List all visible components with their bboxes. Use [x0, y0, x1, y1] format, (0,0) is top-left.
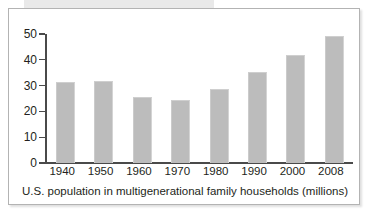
- figure-page: 01020304050 1940195019601970198019902000…: [0, 0, 372, 218]
- bar-series: [46, 34, 353, 163]
- bar-slot: [200, 34, 238, 163]
- bar-slot: [315, 34, 353, 163]
- bar-slot: [276, 34, 314, 163]
- chart-caption: U.S. population in multigenerational fam…: [9, 185, 361, 197]
- bar: [94, 81, 113, 163]
- y-axis-labels: 01020304050: [9, 9, 37, 206]
- y-axis-tick-label: 0: [13, 157, 37, 169]
- bar: [248, 72, 267, 163]
- bar: [286, 55, 305, 163]
- chart-figure-frame: 01020304050 1940195019601970198019902000…: [8, 8, 360, 205]
- x-axis-labels: 19401950196019701980199020002008: [46, 166, 353, 182]
- bar-slot: [238, 34, 276, 163]
- y-axis-tick-label: 50: [13, 28, 37, 40]
- y-axis-tick-label: 20: [13, 105, 37, 117]
- bar-slot: [123, 34, 161, 163]
- bar: [56, 82, 75, 163]
- bar-slot: [46, 34, 84, 163]
- y-axis-tick-label: 40: [13, 54, 37, 66]
- y-axis-tick-label: 10: [13, 131, 37, 143]
- bar-chart: 01020304050 1940195019601970198019902000…: [9, 9, 361, 206]
- bar-slot: [161, 34, 199, 163]
- y-axis-tick-label: 30: [13, 80, 37, 92]
- bar: [171, 100, 190, 163]
- bar: [210, 89, 229, 163]
- bar: [133, 97, 152, 163]
- bar-slot: [84, 34, 122, 163]
- x-axis-tick-label: 2008: [309, 166, 353, 178]
- bar: [325, 36, 344, 163]
